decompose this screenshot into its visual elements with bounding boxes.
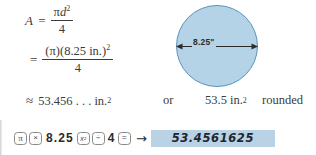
equation-line-2: = (π)(8.25 in.)2 4 [25,45,113,74]
page-edge-artifact [0,120,2,155]
rounded-label: rounded [262,93,303,108]
rounded-result: 53.5 in.2 [205,93,247,108]
diameter-double-arrow-icon [176,42,258,51]
diameter-label: 8.25" [192,37,216,47]
key-divide[interactable]: ÷ [92,132,105,145]
calculator-display: 53.4561625 [151,130,275,147]
equation-line-3: ≈ 53.456 . . . in.2 [26,93,111,109]
equals-sign-1: = [38,13,45,29]
fraction-1: πd2 4 [51,6,74,35]
fraction-1-numerator: πd2 [51,6,74,20]
rounded-note: rounded [262,93,303,108]
fraction-2-numerator: (π)(8.25 in.)2 [42,45,113,59]
calculator-keystroke-sequence: π × 8.25 x² ÷ 4 = → 53.4561625 [13,127,275,149]
worked-example-figure: A = πd2 4 = (π)(8.25 in.)2 4 ≈ 53.456 . … [0,0,316,155]
entry-8-25: 8.25 [46,131,74,145]
equation-line-1: A = πd2 4 [25,6,73,35]
substituted-expression: (π)(8.25 in.) [45,44,106,58]
approx-sign: ≈ [26,93,33,109]
key-pi[interactable]: π [14,132,27,145]
rounded-area-value: 53.5 in. [205,93,243,108]
exponent-1: 2 [66,4,70,13]
alternative-result: or [163,93,173,108]
exponent-2: 2 [106,43,110,52]
fraction-1-denominator: 4 [56,21,68,36]
calculator-display-value: 53.4561625 [172,131,254,145]
result-arrow-icon: → [136,131,147,146]
key-equals[interactable]: = [118,132,131,145]
or-connector: or [163,93,173,108]
variable-a: A [25,13,33,29]
circle-diagram: 8.25" [172,3,269,89]
fraction-2-denominator: 4 [72,60,84,75]
key-square[interactable]: x² [77,132,90,145]
entry-4: 4 [108,131,115,145]
equals-sign-2: = [30,52,37,68]
key-multiply[interactable]: × [29,132,42,145]
exact-area-value: 53.456 . . . in. [38,94,107,109]
fraction-2: (π)(8.25 in.)2 4 [42,45,113,74]
